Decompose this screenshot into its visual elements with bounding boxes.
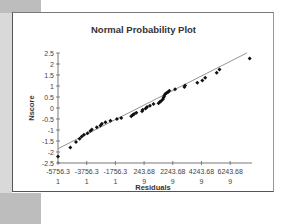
x-tick-label-wrap: 9 bbox=[228, 178, 232, 185]
x-tick-label: 2243.68 bbox=[160, 168, 185, 175]
y-tick-label: -0.5 bbox=[42, 116, 54, 123]
x-tick-label-wrap: 9 bbox=[171, 178, 175, 185]
y-tick-label: 2.5 bbox=[44, 50, 54, 57]
data-point bbox=[203, 76, 207, 80]
y-tick-label: 2 bbox=[50, 61, 54, 68]
x-axis-title: Residuals bbox=[135, 183, 170, 192]
x-tick-label-wrap: 9 bbox=[200, 178, 204, 185]
data-points bbox=[56, 57, 252, 159]
data-point bbox=[74, 140, 78, 144]
trendline-path bbox=[58, 53, 247, 149]
data-point bbox=[218, 68, 222, 72]
y-tick-label: -2.5 bbox=[42, 160, 54, 167]
x-tick-label: -3756.3 bbox=[75, 168, 99, 175]
y-tick-label: -1.5 bbox=[42, 138, 54, 145]
data-point bbox=[115, 117, 119, 121]
x-tick-label: -1756.3 bbox=[104, 168, 128, 175]
data-point bbox=[195, 81, 199, 85]
data-point bbox=[56, 154, 60, 158]
data-point bbox=[119, 116, 123, 120]
data-point bbox=[215, 71, 219, 75]
y-tick-label: 1.5 bbox=[44, 72, 54, 79]
data-point bbox=[173, 87, 177, 91]
y-axis-title: Nscore bbox=[27, 95, 36, 120]
trendline bbox=[58, 53, 247, 149]
y-tick-label: 0 bbox=[50, 105, 54, 112]
y-tick-label: 1 bbox=[50, 83, 54, 90]
data-point bbox=[95, 125, 99, 129]
x-tick-label-wrap: 1 bbox=[113, 178, 117, 185]
x-tick-label: -5756.3 bbox=[46, 168, 70, 175]
x-tick-label: 4243.68 bbox=[189, 168, 214, 175]
x-tick-label-wrap: 1 bbox=[85, 178, 89, 185]
x-tick-label: 243.68 bbox=[133, 168, 155, 175]
y-tick-label: 0.5 bbox=[44, 94, 54, 101]
y-tick-label: -2 bbox=[48, 149, 54, 156]
plot-area: 2.521.510.50-0.5-1-1.5-2-2.5-5756.31-375… bbox=[0, 0, 287, 224]
axis-labels: 2.521.510.50-0.5-1-1.5-2-2.5-5756.31-375… bbox=[27, 50, 243, 193]
data-point bbox=[152, 102, 156, 106]
data-point bbox=[68, 146, 72, 150]
data-point bbox=[108, 119, 112, 123]
data-point bbox=[200, 79, 204, 83]
x-tick-label-wrap: 1 bbox=[56, 178, 60, 185]
data-point bbox=[248, 57, 252, 61]
y-tick-label: -1 bbox=[48, 127, 54, 134]
x-tick-label: 6243.68 bbox=[218, 168, 243, 175]
axes bbox=[56, 53, 252, 165]
